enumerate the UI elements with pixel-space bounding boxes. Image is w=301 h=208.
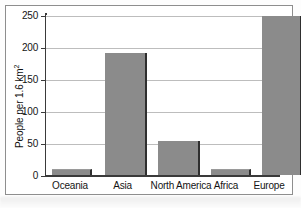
y-axis-title-text: People per 1.6 km [14, 69, 25, 148]
y-axis-title-superscript: 2 [13, 65, 20, 69]
x-axis-line [45, 175, 280, 177]
gridline-250 [46, 16, 279, 17]
y-tick-label-250: 250 [0, 11, 38, 21]
x-label-oceania: Oceania [40, 180, 100, 191]
scan-artifact-strip [0, 197, 301, 208]
bar-asia[interactable] [105, 53, 147, 175]
x-label-europe: Europe [243, 180, 295, 191]
y-axis-title: People per 1.6 km2 [13, 48, 27, 148]
bar-north-america[interactable] [158, 141, 200, 175]
bar-europe[interactable] [262, 16, 301, 175]
y-tick-label-0: 0 [0, 171, 38, 181]
plot-area [46, 15, 279, 175]
gridline-200 [46, 48, 279, 49]
gridline-100 [46, 112, 279, 113]
chart-page: 250 200 150 100 50 0 People per 1.6 km2 … [0, 0, 301, 208]
bar-oceania[interactable] [52, 169, 92, 175]
bar-africa[interactable] [211, 169, 251, 175]
gridline-150 [46, 80, 279, 81]
